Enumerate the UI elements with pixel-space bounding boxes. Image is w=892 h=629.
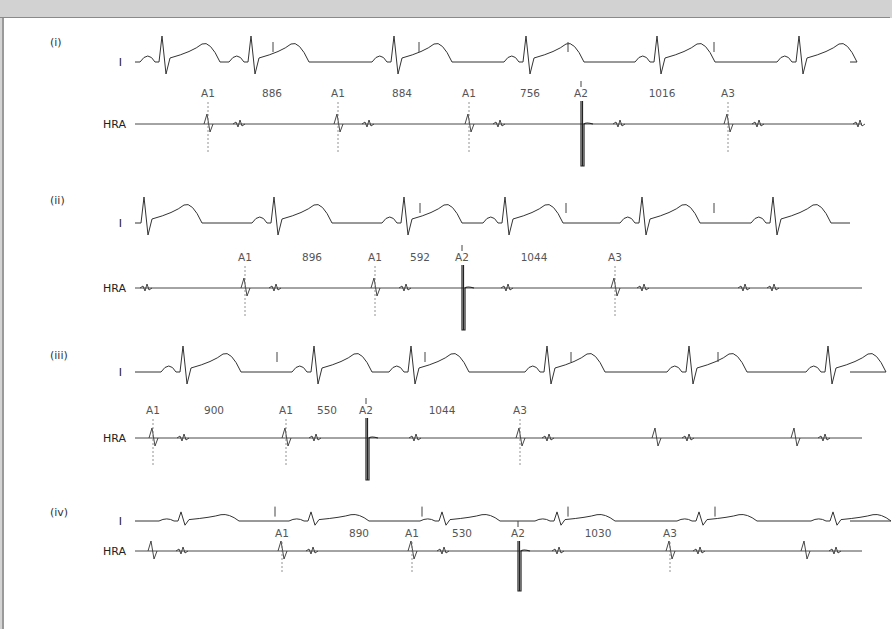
lead-hra-label: HRA [103,432,126,445]
lead-i-trace [135,197,850,235]
panel-label: (ii) [50,194,65,207]
interval-ms-label: 890 [349,527,369,539]
hra-far-field [233,120,245,127]
marker-a1: A1 [462,87,476,99]
lead-hra-label: HRA [103,282,126,295]
interval-ms-label: 896 [302,251,322,263]
hra-electrogram [465,114,474,132]
lead-i-trace [135,512,891,525]
hra-far-field [177,434,189,441]
hra-far-field [853,120,865,127]
hra-far-field [437,547,449,554]
hra-far-field [552,547,564,554]
hra-far-field [767,284,779,291]
hra-far-field [269,284,281,291]
hra-electrogram [724,114,733,132]
hra-far-field [682,434,694,441]
lead-i-label: I [119,515,122,528]
lead-i-label: I [119,366,122,379]
marker-a1: A1 [238,251,252,263]
interval-ms-label: 886 [262,87,282,99]
hra-far-field [306,547,318,554]
hra-far-field [176,547,188,554]
hra-electrogram [516,428,525,446]
viewer-top-bar [0,0,890,18]
interval-ms-label: 1030 [585,527,612,539]
hra-electrogram [278,541,287,559]
hra-far-field [362,120,374,127]
marker-a1: A1 [146,404,160,416]
lead-i-label: I [119,56,122,69]
hra-far-field [829,547,841,554]
hra-far-field [613,120,625,127]
hra-electrogram [148,541,157,559]
lead-i-trace [135,36,857,74]
panel-label: (iii) [50,349,68,362]
marker-a1: A1 [275,527,289,539]
hra-electrogram [666,541,675,559]
hra-electrogram [408,541,417,559]
interval-ms-label: 900 [204,404,224,416]
interval-ms-label: 1044 [429,404,456,416]
figure-page: (i)IHRAA1A1A1A2A38868847561016(ii)IHRAA1… [2,18,892,629]
marker-a1: A1 [405,527,419,539]
hra-far-field [399,284,411,291]
interval-ms-label: 756 [520,87,540,99]
marker-a3: A3 [608,251,622,263]
marker-a1: A1 [279,404,293,416]
hra-electrogram [149,428,158,446]
marker-a1: A1 [331,87,345,99]
hra-electrogram [204,114,213,132]
hra-far-field [493,120,505,127]
marker-a1: A1 [201,87,215,99]
hra-electrogram [791,428,800,446]
panel-label: (i) [50,36,62,49]
lead-i-label: I [119,217,122,230]
lead-i-trace [135,346,886,384]
marker-a1: A1 [368,251,382,263]
marker-a3: A3 [721,87,735,99]
hra-electrogram [611,278,620,296]
hra-far-field [752,120,764,127]
hra-electrogram [371,278,380,296]
hra-electrogram [241,278,250,296]
marker-a2: A2 [511,527,525,539]
hra-far-field [637,284,649,291]
hra-electrogram [334,114,343,132]
hra-far-field [140,284,152,291]
interval-ms-label: 1044 [521,251,548,263]
hra-far-field [818,434,830,441]
hra-electrogram [801,541,810,559]
interval-ms-label: 884 [392,87,412,99]
hra-far-field [542,434,554,441]
interval-ms-label: 550 [317,404,337,416]
ecg-figure: (i)IHRAA1A1A1A2A38868847561016(ii)IHRAA1… [4,18,892,629]
marker-a2: A2 [574,87,588,99]
marker-a2: A2 [455,251,469,263]
hra-far-field [693,547,705,554]
interval-ms-label: 592 [410,251,430,263]
interval-ms-label: 530 [452,527,472,539]
hra-far-field [409,434,421,441]
marker-a2: A2 [359,404,373,416]
hra-electrogram [282,428,291,446]
hra-electrogram [652,428,661,446]
hra-far-field [738,284,750,291]
panel-label: (iv) [50,506,68,519]
lead-hra-label: HRA [103,118,126,131]
lead-hra-label: HRA [103,545,126,558]
marker-a3: A3 [513,404,527,416]
marker-a3: A3 [663,527,677,539]
interval-ms-label: 1016 [649,87,676,99]
hra-far-field [501,284,513,291]
hra-far-field [309,434,321,441]
